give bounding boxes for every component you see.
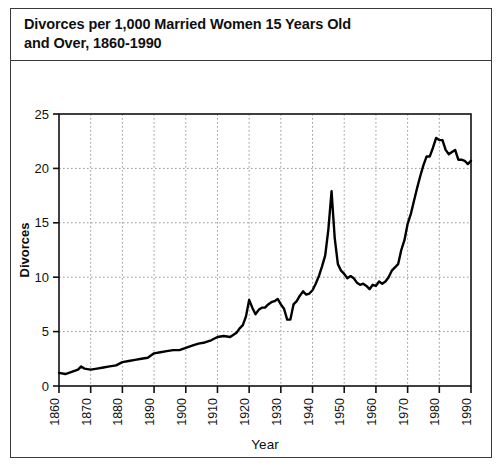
x-tick-label: 1900 xyxy=(175,398,189,426)
plot-area-wrapper: 0510152025 18601870188018901900191019201… xyxy=(11,61,491,458)
x-axis-title: Year xyxy=(251,437,279,452)
figure-panel: Divorces per 1,000 Married Women 15 Year… xyxy=(10,8,492,458)
x-tick-label: 1860 xyxy=(48,398,62,426)
x-tick-label: 1870 xyxy=(80,398,94,426)
y-tick-label: 25 xyxy=(35,107,49,122)
page-title: Divorces per 1,000 Married Women 15 Year… xyxy=(24,15,483,53)
x-tick-label: 1960 xyxy=(365,398,379,426)
title-bar: Divorces per 1,000 Married Women 15 Year… xyxy=(11,9,491,61)
axis-frame xyxy=(59,114,471,386)
divorces-line-chart: 0510152025 18601870188018901900191019201… xyxy=(11,61,491,458)
y-axis-title: Divorces xyxy=(17,223,32,278)
x-tick-label: 1940 xyxy=(302,398,316,426)
y-tick-label: 20 xyxy=(35,161,49,176)
x-tick-label: 1990 xyxy=(460,398,474,426)
x-tick-label: 1980 xyxy=(428,398,442,426)
x-tick-label: 1890 xyxy=(143,398,157,426)
gridlines xyxy=(59,114,471,386)
x-tick-marks xyxy=(59,386,471,393)
data-series-line xyxy=(59,138,471,374)
y-tick-labels: 0510152025 xyxy=(35,107,49,394)
x-tick-label: 1920 xyxy=(238,398,252,426)
y-tick-marks xyxy=(53,114,59,386)
y-tick-label: 10 xyxy=(35,270,49,285)
y-tick-label: 15 xyxy=(35,215,49,230)
x-tick-label: 1950 xyxy=(333,398,347,426)
x-tick-label: 1880 xyxy=(111,398,125,426)
x-tick-label: 1930 xyxy=(270,398,284,426)
x-tick-label: 1970 xyxy=(397,398,411,426)
y-tick-label: 5 xyxy=(42,324,49,339)
y-tick-label: 0 xyxy=(42,379,49,394)
x-tick-label: 1910 xyxy=(206,398,220,426)
x-tick-labels: 1860187018801890190019101920193019401950… xyxy=(48,398,474,426)
data-line-path xyxy=(59,138,471,374)
